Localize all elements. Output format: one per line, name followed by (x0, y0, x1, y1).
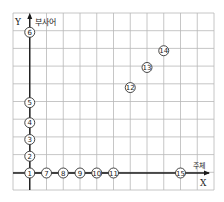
point-12: 12 (125, 83, 135, 93)
point-5: 5 (25, 98, 35, 108)
point-label: 5 (28, 99, 32, 107)
point-2: 2 (25, 151, 35, 161)
grid-lines (13, 13, 214, 190)
point-13: 13 (142, 62, 152, 72)
point-label: 8 (61, 170, 65, 178)
point-11: 11 (109, 168, 119, 178)
point-label: 2 (28, 153, 32, 161)
y-axis-letter: Y (14, 17, 22, 27)
point-label: 7 (44, 170, 48, 178)
point-label: 6 (28, 29, 33, 37)
x-axis-letter: X (200, 178, 207, 188)
point-14: 14 (159, 46, 169, 56)
points: 123456789101112131415 (25, 27, 186, 178)
point-label: 9 (78, 170, 82, 178)
grid-diagram: 123456789101112131415 Y 부사어 주체 X (0, 0, 224, 202)
point-label: 11 (109, 170, 118, 178)
point-label: 1 (28, 170, 32, 178)
x-axis-label: 주체 (193, 162, 205, 170)
point-9: 9 (75, 168, 85, 178)
point-4: 4 (25, 118, 35, 128)
y-axis-arrow-icon (27, 13, 32, 19)
point-label: 14 (159, 47, 168, 55)
point-15: 15 (176, 168, 186, 178)
point-7: 7 (42, 168, 52, 178)
point-label: 4 (28, 119, 33, 127)
point-8: 8 (58, 168, 68, 178)
point-1: 1 (25, 168, 35, 178)
point-label: 15 (176, 170, 185, 178)
point-label: 13 (143, 64, 152, 72)
point-3: 3 (25, 135, 35, 145)
x-axis-arrow-icon (204, 171, 210, 176)
point-10: 10 (92, 168, 102, 178)
point-label: 12 (126, 84, 135, 92)
point-6: 6 (25, 27, 35, 37)
connectors (30, 103, 114, 173)
y-axis-label: 부사어 (35, 17, 56, 27)
point-label: 10 (92, 170, 101, 178)
point-label: 3 (28, 136, 32, 144)
